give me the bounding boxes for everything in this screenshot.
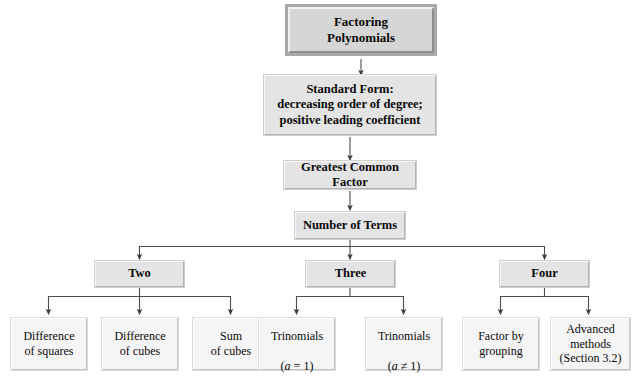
node-label: Greatest Common Factor [285,160,415,191]
node-label: Sum of cubes [208,329,254,358]
node-label: Three [332,266,370,281]
node-standard-form[interactable]: Standard Form: decreasing order of degre… [264,75,436,135]
node-label: Difference of squares [20,329,77,358]
node-greatest-common-factor[interactable]: Greatest Common Factor [284,161,416,189]
node-three[interactable]: Three [306,261,395,287]
node-two[interactable]: Two [95,261,184,287]
node-four[interactable]: Four [500,261,589,287]
node-difference-of-squares[interactable]: Difference of squares [11,318,87,370]
node-difference-of-cubes[interactable]: Difference of cubes [102,318,178,370]
formula-suffix: = 1) [291,359,314,373]
node-label: Advanced methods (Section 3.2) [557,322,625,366]
node-label: Four [528,266,560,281]
flowchart-diagram: Factoring Polynomials Standard Form: dec… [0,0,642,388]
node-label: Trinomials [378,329,430,343]
node-number-of-terms[interactable]: Number of Terms [295,212,405,239]
node-sum-of-cubes[interactable]: Sum of cubes [193,318,269,370]
node-label: Trinomials [271,329,323,343]
node-label: Factor by grouping [475,329,527,358]
node-label: Difference of cubes [111,329,168,358]
node-label-group: Trinomials (a = 1) [268,315,326,374]
node-label: Factoring Polynomials [324,14,398,46]
node-advanced-methods[interactable]: Advanced methods (Section 3.2) [551,318,630,370]
node-trinomials-a-equals-1[interactable]: Trinomials (a = 1) [259,318,335,370]
node-factor-by-grouping[interactable]: Factor by grouping [463,318,539,370]
node-label: Two [125,266,154,281]
node-label-group: Trinomials (a ≠ 1) [375,315,433,374]
node-label: Number of Terms [300,218,400,233]
formula-suffix: ≠ 1) [398,359,421,373]
node-label: Standard Form: decreasing order of degre… [274,82,425,128]
node-trinomials-a-not-equals-1[interactable]: Trinomials (a ≠ 1) [366,318,442,370]
node-factoring-polynomials[interactable]: Factoring Polynomials [288,7,434,53]
